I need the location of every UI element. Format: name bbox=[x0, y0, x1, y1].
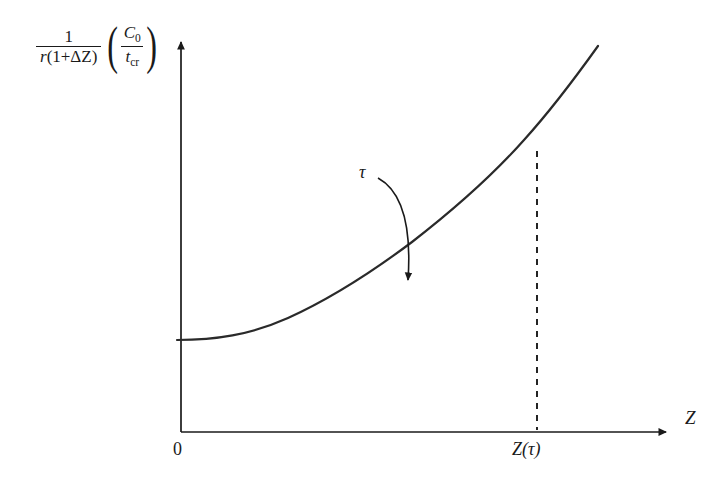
figure-canvas: 1 r(1+ΔZ) ( C0 tcr ) bbox=[0, 0, 720, 483]
data-curve-tau bbox=[177, 46, 598, 340]
tau-annotation-arrow bbox=[378, 178, 409, 280]
curve-label-tau: τ bbox=[359, 163, 365, 181]
x-axis-tick-label-z-tau: Z(τ) bbox=[512, 440, 540, 458]
origin-label: 0 bbox=[173, 440, 182, 458]
plot-area bbox=[0, 0, 720, 483]
x-axis-label: Z bbox=[685, 408, 696, 427]
